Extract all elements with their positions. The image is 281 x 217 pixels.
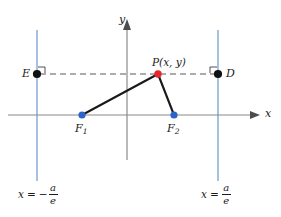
point-f1-label: F1 [75,123,87,135]
directrix-left-fraction: a e [49,183,58,206]
directrix-equation-right: x = a e [201,183,231,206]
x-axis-label: x [265,108,271,119]
point-d-dot [214,70,222,78]
point-f2-label: F2 [167,123,179,135]
point-f2-dot [170,111,177,118]
directrix-left-variable: x [18,189,24,200]
directrix-right-numerator: a [222,183,230,194]
point-p-label: P(x, y) [152,57,186,68]
point-f1-dot [78,111,85,118]
directrix-left-denominator: e [49,195,57,206]
directrix-right-variable: x [201,189,207,200]
x-axis-arrowhead [250,111,260,119]
directrix-equation-left: x = − a e [18,183,58,206]
directrix-left-equals: = [27,189,36,200]
point-e-dot [33,70,41,78]
point-p-dot [154,70,161,77]
directrix-right-denominator: e [222,195,230,206]
directrix-left-sign: − [39,189,48,200]
directrix-right-fraction: a e [222,183,231,206]
point-e-label: E [22,68,30,79]
point-f1-letter: F [75,122,83,135]
point-f2-letter: F [167,122,175,135]
point-f1-subscript: 1 [83,127,88,136]
y-axis-label: y [119,14,125,25]
segment-p-f2 [158,74,174,115]
point-f2-subscript: 2 [175,127,180,136]
point-d-label: D [226,68,235,79]
figure-canvas: y x E D P(x, y) F1 F2 x = − a e x = a e [0,0,281,217]
directrix-left-numerator: a [49,183,57,194]
segment-f1-p [82,74,158,115]
directrix-right-equals: = [210,189,219,200]
